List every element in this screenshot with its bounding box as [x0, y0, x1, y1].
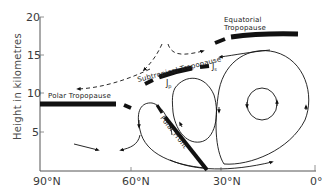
ferrel-arrow-up	[180, 123, 182, 127]
polar-tropopause-label: Polar Tropopause	[48, 92, 111, 100]
y-axis-title: Height in kilometres	[12, 33, 23, 140]
equatorial-tropopause-dash	[215, 39, 225, 43]
equatorial-tropopause-line	[231, 34, 298, 37]
polar-front: Polar Front	[157, 105, 207, 170]
y-tick-10: 10	[27, 87, 41, 100]
polar-tropopause-dash	[124, 105, 131, 108]
polar-jet-label: Jp	[165, 79, 172, 90]
equatorial-tropopause-label-1: Equatorial	[224, 16, 262, 24]
polar-front-label: Polar Front	[158, 114, 189, 150]
x-tick-30n: 30°N	[213, 175, 241, 188]
polar-surface-outflow	[121, 135, 140, 150]
y-tick-5: 5	[32, 126, 39, 139]
x-tick-0: 0°	[310, 175, 323, 188]
hadley-cell-outer-loop	[216, 51, 309, 165]
hadley-return-flow	[220, 50, 270, 57]
y-tick-20: 20	[26, 11, 40, 24]
dashed-descent-flow	[144, 44, 162, 70]
dashed-return-flow	[168, 44, 203, 54]
x-tick-90n: 90°N	[33, 175, 61, 188]
y-tick-15: 15	[27, 49, 41, 62]
equatorial-tropopause-label-2: Tropopause	[223, 24, 266, 32]
x-tick-60n: 60°N	[122, 175, 150, 188]
polar-surface-arrow	[74, 144, 98, 150]
atmospheric-circulation-diagram: 20 15 10 5 90°N 60°N 30°N 0° Height in k…	[0, 0, 333, 196]
hadley-inner-loop	[247, 88, 277, 120]
tropopauses: Polar Tropopause Subtropical Tropopause …	[40, 16, 298, 108]
